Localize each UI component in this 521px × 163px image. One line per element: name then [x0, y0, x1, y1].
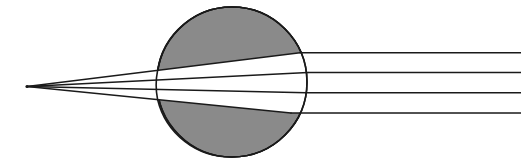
- ray-diagram-svg: Refraction of parallel rays by a sphere …: [0, 0, 521, 163]
- figure-root: Refraction of parallel rays by a sphere …: [0, 0, 521, 163]
- focal-point-marker: [25, 85, 28, 88]
